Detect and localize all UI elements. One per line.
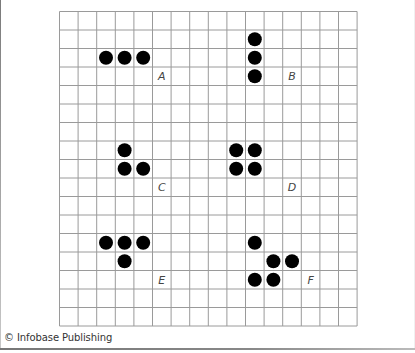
dot bbox=[99, 236, 113, 250]
pattern-label: A bbox=[157, 70, 166, 83]
pattern-label: D bbox=[288, 181, 296, 194]
dot bbox=[99, 51, 113, 65]
dot bbox=[248, 162, 262, 176]
dot bbox=[118, 143, 132, 157]
dot bbox=[266, 273, 280, 287]
frame-left-border bbox=[0, 0, 1, 349]
dot bbox=[266, 254, 280, 268]
pattern-label: B bbox=[288, 70, 296, 83]
dot bbox=[229, 143, 243, 157]
pattern-c: C bbox=[118, 143, 166, 194]
pattern-d: D bbox=[229, 143, 296, 194]
dot bbox=[248, 273, 262, 287]
pattern-e: E bbox=[99, 236, 165, 287]
dot bbox=[248, 236, 262, 250]
pattern-label: E bbox=[158, 274, 165, 287]
dot bbox=[118, 162, 132, 176]
pattern-label: F bbox=[307, 274, 314, 287]
pattern-b: B bbox=[248, 32, 296, 83]
dot bbox=[248, 51, 262, 65]
dot bbox=[136, 162, 150, 176]
dot bbox=[136, 236, 150, 250]
pattern-grid: ABCDEF bbox=[59, 11, 359, 328]
dot bbox=[248, 143, 262, 157]
dot bbox=[136, 51, 150, 65]
pattern-label: C bbox=[158, 181, 166, 194]
pattern-f: F bbox=[248, 236, 315, 287]
dot bbox=[118, 236, 132, 250]
dot bbox=[118, 254, 132, 268]
dot bbox=[229, 162, 243, 176]
publisher-credit: © Infobase Publishing bbox=[4, 332, 112, 343]
dot bbox=[248, 69, 262, 83]
dot bbox=[248, 32, 262, 46]
dot bbox=[285, 254, 299, 268]
frame-bottom-rule bbox=[0, 348, 415, 350]
dot bbox=[118, 51, 132, 65]
